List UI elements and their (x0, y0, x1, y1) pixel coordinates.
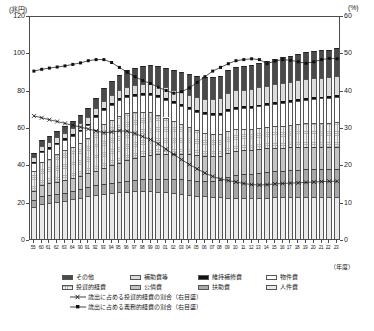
x-tick-mark (33, 240, 34, 243)
plot-area (29, 16, 340, 240)
legend-swatch (266, 275, 277, 280)
line-marker (281, 58, 284, 61)
y-tick-label: 50 (344, 49, 366, 56)
chart-root: (兆円) (%) 120100806040200 6050403020100 5… (0, 0, 374, 331)
line-marker (235, 59, 238, 62)
line-marker (211, 174, 215, 178)
x-tick-mark (118, 240, 119, 243)
x-tick-mark (227, 240, 228, 243)
legend-swatch (130, 285, 141, 290)
x-tick-mark (157, 240, 158, 243)
right-axis-unit: (%) (348, 4, 358, 11)
line-marker (273, 60, 276, 63)
x-tick-mark (103, 240, 104, 243)
x-tick-mark (313, 240, 314, 243)
x-tick-mark (142, 240, 143, 243)
x-tick-mark (111, 240, 112, 243)
line-marker (297, 60, 300, 63)
y-tick-label: 120 (5, 12, 25, 19)
legend-swatch (198, 275, 209, 280)
line-marker (336, 57, 339, 60)
legend-label: 歳出に占める投資的経費の割合（右目盛） (88, 294, 202, 300)
x-tick-mark (336, 240, 337, 243)
y-tick-label: 10 (344, 199, 366, 206)
x-tick-mark (321, 240, 322, 243)
legend-line-swatch (70, 304, 86, 310)
line-marker (64, 64, 67, 67)
x-tick-mark (235, 240, 236, 243)
x-tick-label: 23 (332, 244, 341, 250)
legend-label: 補助費等 (144, 274, 168, 280)
x-tick-mark (274, 240, 275, 243)
line-marker (266, 62, 269, 65)
x-tick-mark (95, 240, 96, 243)
x-tick-mark (251, 240, 252, 243)
x-tick-mark (150, 240, 151, 243)
x-tick-mark (219, 240, 220, 243)
line-marker (242, 58, 245, 61)
legend-label: 扶助費 (212, 284, 230, 290)
line-marker (32, 70, 35, 73)
x-tick-mark (165, 240, 166, 243)
x-tick-mark (87, 240, 88, 243)
x-tick-mark (48, 240, 49, 243)
x-tick-mark (41, 240, 42, 243)
line-marker (165, 89, 168, 92)
y-tick-label: 20 (5, 199, 25, 206)
y-tick-mark (26, 240, 29, 241)
x-tick-mark (266, 240, 267, 243)
legend-item: その他 (62, 272, 94, 281)
y-tick-label: 0 (5, 236, 25, 243)
legend-item: 補助費等 (130, 272, 168, 281)
legend-swatch (266, 285, 277, 290)
legend-row-line-1: 歳出に占める投資的経費の割合（右目盛） (0, 292, 374, 302)
legend-item: 物件費 (266, 272, 298, 281)
line-marker (203, 75, 206, 78)
x-tick-mark (204, 240, 205, 243)
line-marker (149, 82, 152, 85)
line-marker (95, 58, 98, 61)
line-marker (156, 142, 160, 146)
x-tick-mark (258, 240, 259, 243)
line-marker (40, 68, 43, 71)
line-marker (102, 58, 105, 61)
x-tick-mark (173, 240, 174, 243)
x-tick-mark (181, 240, 182, 243)
y-tick-label: 0 (344, 236, 366, 243)
legend-row-line-2: 歳出に占める義務的経費の割合（右目盛） (0, 302, 374, 312)
y-tick-label: 80 (5, 87, 25, 94)
legend-label: 歳出に占める義務的経費の割合（右目盛） (88, 304, 202, 310)
line-marker (196, 81, 199, 84)
line-marker (187, 163, 191, 167)
legend: その他補助費等維持補修費物件費 投資的経費公債費扶助費人件費 歳出に占める投資的… (0, 272, 374, 312)
x-tick-mark (305, 240, 306, 243)
line-marker (320, 58, 323, 61)
line-marker (312, 60, 315, 63)
line-marker (203, 171, 207, 175)
x-tick-mark (188, 240, 189, 243)
line-marker (195, 167, 199, 171)
line-marker (87, 59, 90, 62)
line-marker (118, 66, 121, 69)
y-tick-label: 30 (344, 124, 366, 131)
x-tick-mark (196, 240, 197, 243)
x-tick-mark (72, 240, 73, 243)
line-marker (149, 138, 153, 142)
line-marker (110, 61, 113, 64)
line-marker (79, 61, 82, 64)
x-axis-caption: （年度） (330, 262, 354, 271)
legend-label: その他 (76, 274, 94, 280)
x-tick-mark (134, 240, 135, 243)
legend-item: 人件費 (266, 282, 298, 291)
legend-row-bars-2: 投資的経費公債費扶助費人件費 (0, 282, 374, 292)
y-tick-label: 100 (5, 49, 25, 56)
y-tick-label: 60 (5, 124, 25, 131)
line-marker (258, 58, 261, 61)
y-tick-label: 60 (344, 12, 366, 19)
legend-swatch (62, 275, 73, 280)
legend-item: 投資的経費 (62, 282, 106, 291)
x-tick-mark (243, 240, 244, 243)
legend-line-swatch (70, 294, 86, 300)
line-marker (211, 70, 214, 73)
line-marker (141, 79, 144, 82)
